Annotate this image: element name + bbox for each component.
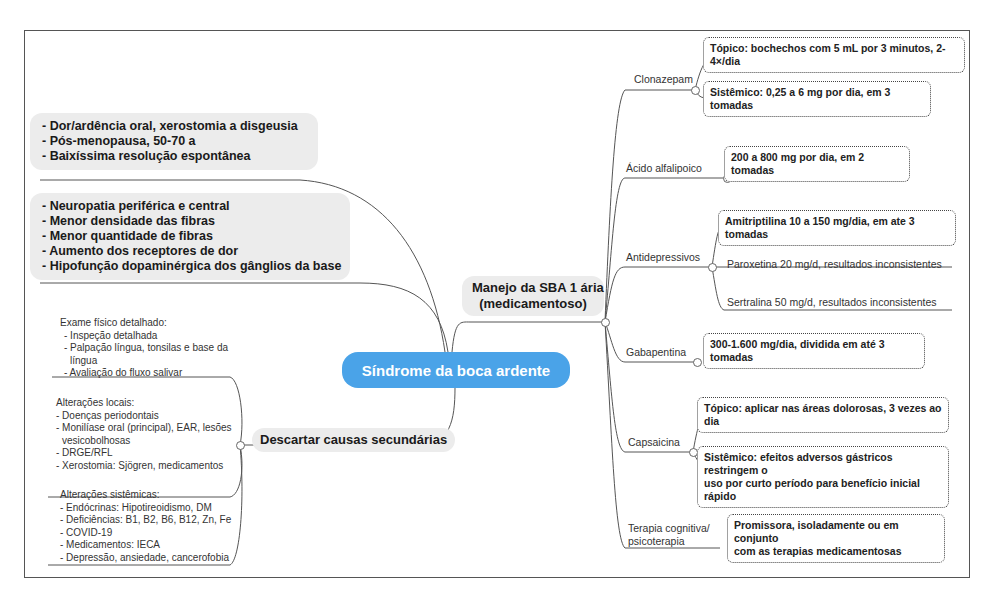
systemic-line: - Medicamentos: IECA bbox=[60, 539, 231, 552]
local-line: - Doenças periodontais bbox=[56, 410, 232, 423]
clinical-features-box: - Dor/ardência oral, xerostomia a disgeu… bbox=[30, 113, 318, 170]
gabapentina-node-circle bbox=[693, 358, 702, 367]
exam-line: língua bbox=[60, 355, 228, 368]
antidepressivos-node-circle bbox=[708, 263, 717, 272]
gabapentina-dose-box: 300-1.600 mg/dia, dividida em até 3 toma… bbox=[703, 333, 925, 369]
capsaicina-systemic-line: Sistêmico: efeitos adversos gástricos re… bbox=[704, 451, 942, 477]
pathophysiology-box: - Neuropatia periférica e central - Meno… bbox=[30, 193, 350, 280]
local-line: - DRGE/RFL bbox=[56, 447, 232, 460]
local-line: Alterações locais: bbox=[56, 397, 232, 410]
systemic-line: - Depressão, ansiedade, cancerofobia bbox=[60, 552, 231, 565]
terapia-box-line: Promissora, isoladamente ou em conjunto bbox=[734, 519, 938, 545]
sertralina-text: Sertralina 50 mg/d, resultados inconsist… bbox=[727, 296, 937, 308]
central-topic: Síndrome da boca ardente bbox=[342, 352, 570, 388]
pathophysiology-line: - Aumento dos receptores de dor bbox=[42, 244, 338, 259]
clonazepam-topical-box: Tópico: bochechos com 5 mL por 3 minutos… bbox=[703, 37, 965, 73]
exam-line: - Avaliação do fluxo salivar bbox=[60, 367, 228, 380]
exam-line: - Palpação língua, tonsilas e base da bbox=[60, 342, 228, 355]
drug-label-clonazepam: Clonazepam bbox=[634, 73, 693, 85]
exam-line: - Inspeção detalhada bbox=[60, 330, 228, 343]
management-title-line: (medicamentoso) bbox=[472, 296, 594, 312]
systemic-line: - COVID-19 bbox=[60, 527, 231, 540]
terapia-line: psicoterapia bbox=[628, 535, 710, 548]
clinical-line: - Baixíssima resolução espontânea bbox=[42, 149, 306, 164]
capsaicina-topical-text: Tópico: aplicar nas áreas dolorosas, 3 v… bbox=[704, 402, 942, 427]
exam-line: Exame físico detalhado: bbox=[60, 317, 228, 330]
drug-label-terapia: Terapia cognitiva/ psicoterapia bbox=[628, 522, 710, 548]
local-changes-group: Alterações locais: - Doenças periodontai… bbox=[56, 397, 232, 472]
terapia-box-line: com as terapias medicamentosas bbox=[734, 545, 938, 558]
drug-label-antidepressivos: Antidepressivos bbox=[626, 251, 700, 263]
local-line: - Xerostomia: Sjögren, medicamentos bbox=[56, 460, 232, 473]
pathophysiology-line: - Menor quantidade de fibras bbox=[42, 229, 338, 244]
acido-dose-text: 200 a 800 mg por dia, em 2 tomadas bbox=[731, 151, 864, 176]
terapia-line: Terapia cognitiva/ bbox=[628, 522, 710, 535]
capsaicina-systemic-box: Sistêmico: efeitos adversos gástricos re… bbox=[697, 446, 949, 508]
capsaicina-topical-box: Tópico: aplicar nas áreas dolorosas, 3 v… bbox=[697, 397, 949, 433]
systemic-line: - Endócrinas: Hipotireoidismo, DM bbox=[60, 502, 231, 515]
acido-dose-box: 200 a 800 mg por dia, em 2 tomadas bbox=[724, 146, 910, 182]
clinical-line: - Pós-menopausa, 50-70 a bbox=[42, 134, 306, 149]
secondary-causes-title: Descartar causas secundárias bbox=[260, 432, 447, 447]
drug-label-acido-alfalipoico: Ácido alfalipoico bbox=[626, 162, 702, 174]
systemic-changes-group: Alterações sistêmicas: - Endócrinas: Hip… bbox=[60, 489, 231, 564]
amitriptilina-box: Amitriptilina 10 a 150 mg/dia, em ate 3 … bbox=[718, 210, 956, 246]
systemic-line: - Deficiências: B1, B2, B6, B12, Zn, Fe bbox=[60, 514, 231, 527]
capsaicina-systemic-line: uso por curto período para benefício ini… bbox=[704, 477, 942, 503]
clonazepam-node-circle bbox=[691, 86, 700, 95]
clonazepam-topical-text: Tópico: bochechos com 5 mL por 3 minutos… bbox=[710, 42, 946, 67]
drug-label-capsaicina: Capsaicina bbox=[628, 436, 680, 448]
manejo-node-circle bbox=[601, 318, 610, 327]
pathophysiology-line: - Neuropatia periférica e central bbox=[42, 199, 338, 214]
secondary-causes-branch: Descartar causas secundárias bbox=[252, 428, 455, 452]
amitriptilina-text: Amitriptilina 10 a 150 mg/dia, em ate 3 … bbox=[725, 215, 915, 240]
clinical-line: - Dor/ardência oral, xerostomia a disgeu… bbox=[42, 119, 306, 134]
gabapentina-dose-text: 300-1.600 mg/dia, dividida em até 3 toma… bbox=[710, 338, 885, 363]
pathophysiology-line: - Menor densidade das fibras bbox=[42, 214, 338, 229]
systemic-line: Alterações sistêmicas: bbox=[60, 489, 231, 502]
clonazepam-systemic-text: Sistêmico: 0,25 a 6 mg por dia, em 3 tom… bbox=[710, 86, 890, 111]
paroxetina-text: Paroxetina 20 mg/d, resultados inconsist… bbox=[727, 258, 942, 270]
descartar-node-circle bbox=[236, 441, 245, 450]
drug-label-gabapentina: Gabapentina bbox=[626, 346, 686, 358]
local-line: - Monilíase oral (principal), EAR, lesõe… bbox=[56, 422, 232, 435]
physical-exam-group: Exame físico detalhado: - Inspeção detal… bbox=[60, 317, 228, 380]
terapia-box: Promissora, isoladamente ou em conjunto … bbox=[727, 514, 945, 563]
clonazepam-systemic-box: Sistêmico: 0,25 a 6 mg por dia, em 3 tom… bbox=[703, 81, 931, 117]
management-title-line: Manejo da SBA 1 ária bbox=[472, 280, 594, 296]
pathophysiology-line: - Hipofunção dopaminérgica dos gânglios … bbox=[42, 259, 338, 274]
central-topic-label: Síndrome da boca ardente bbox=[362, 362, 550, 379]
management-branch: Manejo da SBA 1 ária (medicamentoso) bbox=[462, 276, 604, 316]
local-line: vesicobolhosas bbox=[56, 435, 232, 448]
